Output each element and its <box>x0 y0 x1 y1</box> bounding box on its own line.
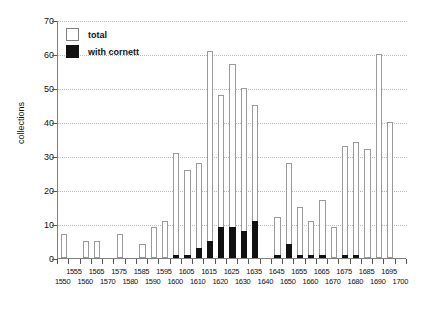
bar-with-cornett <box>173 255 179 258</box>
x-tick-label: 1640 <box>254 278 276 286</box>
bar-with-cornett <box>342 255 348 258</box>
y-tick-label-60: 60 <box>28 51 54 60</box>
bar-with-cornett <box>297 255 303 258</box>
x-tick-mark <box>383 259 384 264</box>
bar-total <box>207 51 213 258</box>
x-tick-mark <box>293 259 294 264</box>
bar-with-cornett <box>286 244 292 258</box>
legend-label-with-cornett: with cornett <box>88 47 139 57</box>
x-tick-label: 1645 <box>266 268 288 276</box>
x-tick-label: 1550 <box>52 278 74 286</box>
x-tick-label: 1635 <box>243 268 265 276</box>
bar-total <box>387 122 393 258</box>
x-tick-mark <box>68 259 69 264</box>
x-tick-mark <box>192 259 193 264</box>
bar-total <box>151 227 157 258</box>
legend-item-total: total <box>66 26 139 43</box>
y-tick-label-30: 30 <box>28 153 54 162</box>
bar-total <box>83 241 89 258</box>
x-tick-label: 1560 <box>74 278 96 286</box>
bar-with-cornett <box>218 227 224 258</box>
x-tick-label: 1680 <box>344 278 366 286</box>
x-tick-mark <box>147 259 148 264</box>
bar-total <box>353 142 359 258</box>
y-tick-label-0: 0 <box>28 255 54 264</box>
x-tick-mark <box>215 259 216 264</box>
x-tick-label: 1685 <box>356 268 378 276</box>
bar-with-cornett <box>319 255 325 258</box>
legend-item-with-cornett: with cornett <box>66 43 139 60</box>
y-tick-label-20: 20 <box>28 187 54 196</box>
x-tick-mark <box>91 259 92 264</box>
bar-total <box>61 234 67 258</box>
bar-total <box>139 244 145 258</box>
x-tick-label: 1700 <box>389 278 411 286</box>
bar-with-cornett <box>184 255 190 258</box>
x-tick-mark <box>338 259 339 264</box>
bar-with-cornett <box>241 231 247 258</box>
x-tick-mark <box>260 259 261 264</box>
x-tick-mark <box>372 259 373 264</box>
bar-total <box>184 170 190 258</box>
x-tick-label: 1615 <box>198 268 220 276</box>
bar-with-cornett <box>229 227 235 258</box>
x-tick-label: 1605 <box>175 268 197 276</box>
x-tick-mark <box>158 259 159 264</box>
x-tick-label: 1660 <box>299 278 321 286</box>
bar-total <box>162 221 168 258</box>
x-tick-label: 1620 <box>209 278 231 286</box>
x-tick-mark <box>80 259 81 264</box>
x-tick-mark <box>170 259 171 264</box>
legend-swatch-total-icon <box>66 28 79 41</box>
x-tick-mark <box>350 259 351 264</box>
x-tick-label: 1630 <box>232 278 254 286</box>
x-tick-mark <box>305 259 306 264</box>
x-tick-label: 1650 <box>277 278 299 286</box>
x-tick-label: 1625 <box>221 268 243 276</box>
x-tick-mark <box>57 259 58 264</box>
bar-total <box>319 200 325 258</box>
bar-total <box>308 221 314 258</box>
x-tick-label: 1570 <box>97 278 119 286</box>
bar-with-cornett <box>252 221 258 258</box>
y-tick-label-50: 50 <box>28 85 54 94</box>
bar-with-cornett <box>308 255 314 258</box>
bar-with-cornett <box>274 255 280 258</box>
bar-total <box>331 227 337 258</box>
x-tick-label: 1600 <box>164 278 186 286</box>
x-tick-label: 1695 <box>378 268 400 276</box>
y-tick-label-70: 70 <box>28 17 54 26</box>
x-tick-mark <box>248 259 249 264</box>
bar-total <box>342 146 348 258</box>
bar-total <box>173 153 179 258</box>
x-tick-label: 1595 <box>153 268 175 276</box>
x-tick-mark <box>406 259 407 264</box>
x-tick-mark <box>203 259 204 264</box>
bar-with-cornett <box>196 248 202 258</box>
x-tick-label: 1655 <box>288 268 310 276</box>
bar-total <box>117 234 123 258</box>
x-tick-mark <box>181 259 182 264</box>
x-tick-label: 1590 <box>142 278 164 286</box>
gridline-70 <box>58 21 407 22</box>
x-tick-mark <box>282 259 283 264</box>
y-axis-label: collections <box>16 78 26 168</box>
bar-with-cornett <box>207 241 213 258</box>
legend-swatch-cornett-icon <box>66 45 79 58</box>
x-tick-label: 1670 <box>322 278 344 286</box>
bar-total <box>297 207 303 258</box>
x-tick-mark <box>271 259 272 264</box>
x-tick-mark <box>395 259 396 264</box>
x-tick-label: 1580 <box>119 278 141 286</box>
x-tick-mark <box>327 259 328 264</box>
x-tick-label: 1690 <box>367 278 389 286</box>
x-tick-label: 1585 <box>130 268 152 276</box>
bar-total <box>274 217 280 258</box>
y-tick-label-40: 40 <box>28 119 54 128</box>
bar-total <box>364 149 370 258</box>
x-tick-mark <box>136 259 137 264</box>
bar-chart: collections 70 60 50 40 30 20 10 0 15501… <box>0 0 434 309</box>
x-tick-mark <box>361 259 362 264</box>
x-tick-mark <box>125 259 126 264</box>
x-tick-label: 1610 <box>187 278 209 286</box>
